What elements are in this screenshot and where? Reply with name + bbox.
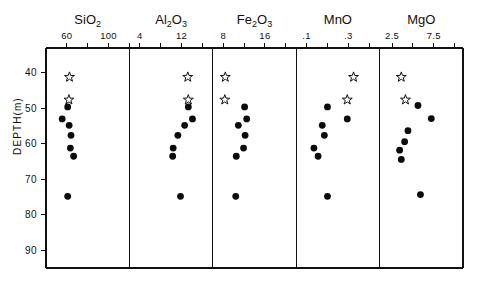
data-point xyxy=(417,191,424,198)
data-point xyxy=(315,153,322,160)
data-point xyxy=(324,104,331,111)
depth-tick-label: 70 xyxy=(25,174,37,185)
panel-title-mno: MnO xyxy=(324,12,352,27)
panel-mgo: 2.57.5MgO xyxy=(380,12,455,268)
star-marker xyxy=(220,95,230,104)
x-tick-label: 12 xyxy=(176,30,187,41)
data-point xyxy=(232,193,239,200)
data-point xyxy=(174,132,181,139)
depth-tick-label: 90 xyxy=(25,245,37,256)
star-marker xyxy=(401,95,411,104)
panel-al2o3: 412Al2O3 xyxy=(129,12,202,268)
data-point xyxy=(169,153,176,160)
data-point xyxy=(396,147,403,154)
star-marker xyxy=(64,95,74,104)
star-marker xyxy=(396,72,406,81)
depth-tick-label: 60 xyxy=(25,138,37,149)
data-point xyxy=(398,156,405,163)
x-tick-label: 7.5 xyxy=(427,30,441,41)
data-point xyxy=(233,153,240,160)
panel-title-fe2o3: Fe2O3 xyxy=(237,12,272,29)
data-point xyxy=(64,104,71,111)
data-point xyxy=(415,102,422,109)
panel-mno: .1.3MnO xyxy=(296,12,369,268)
data-point xyxy=(344,116,351,123)
star-marker xyxy=(65,72,75,81)
data-point xyxy=(64,193,71,200)
x-tick-label: 100 xyxy=(100,30,117,41)
data-point xyxy=(181,122,188,129)
depth-tick-label: 50 xyxy=(25,103,37,114)
data-point xyxy=(189,116,196,123)
panel-fe2o3: 816Fe2O3 xyxy=(213,12,286,268)
data-point xyxy=(66,122,73,129)
depth-tick-label: 40 xyxy=(25,67,37,78)
data-point xyxy=(59,116,66,123)
data-point xyxy=(70,153,77,160)
panel-sio2: 60100SiO2 xyxy=(59,12,130,200)
panel-title-mgo: MgO xyxy=(407,12,435,27)
data-point xyxy=(428,115,435,122)
star-marker xyxy=(342,95,352,104)
star-marker xyxy=(220,72,230,81)
data-point xyxy=(311,145,318,152)
data-point xyxy=(243,116,250,123)
data-point xyxy=(321,132,328,139)
panels-group: 60100SiO2412Al2O3816Fe2O3.1.3MnO2.57.5Mg… xyxy=(46,12,463,268)
data-point xyxy=(67,145,74,152)
y-axis-title: DEPTH(m) xyxy=(12,97,23,155)
data-point xyxy=(170,145,177,152)
panel-title-sio2: SiO2 xyxy=(74,12,101,29)
panel-title-al2o3: Al2O3 xyxy=(155,12,187,29)
x-tick-label: .3 xyxy=(344,30,353,41)
data-point xyxy=(401,138,408,145)
star-marker xyxy=(349,72,359,81)
x-tick-label: .1 xyxy=(302,30,311,41)
data-point xyxy=(405,127,412,134)
chart-canvas: 60100SiO2412Al2O3816Fe2O3.1.3MnO2.57.5Mg… xyxy=(0,0,481,284)
data-point xyxy=(177,193,184,200)
data-point xyxy=(242,132,249,139)
data-point xyxy=(235,122,242,129)
data-point xyxy=(240,145,247,152)
depth-tick-label: 80 xyxy=(25,209,37,220)
depth-axis-group: 405060708090DEPTH(m) xyxy=(12,67,46,255)
data-point xyxy=(241,104,248,111)
star-marker xyxy=(183,72,193,81)
x-tick-label: 2.5 xyxy=(385,30,399,41)
x-tick-label: 60 xyxy=(61,30,72,41)
x-tick-label: 8 xyxy=(220,30,226,41)
data-point xyxy=(185,104,192,111)
geochemistry-depth-profile-figure: 60100SiO2412Al2O3816Fe2O3.1.3MnO2.57.5Mg… xyxy=(0,0,481,284)
data-point xyxy=(324,193,331,200)
x-tick-label: 4 xyxy=(137,30,143,41)
data-point xyxy=(68,132,75,139)
x-tick-label: 16 xyxy=(259,30,270,41)
data-point xyxy=(319,122,326,129)
star-marker xyxy=(183,95,193,104)
